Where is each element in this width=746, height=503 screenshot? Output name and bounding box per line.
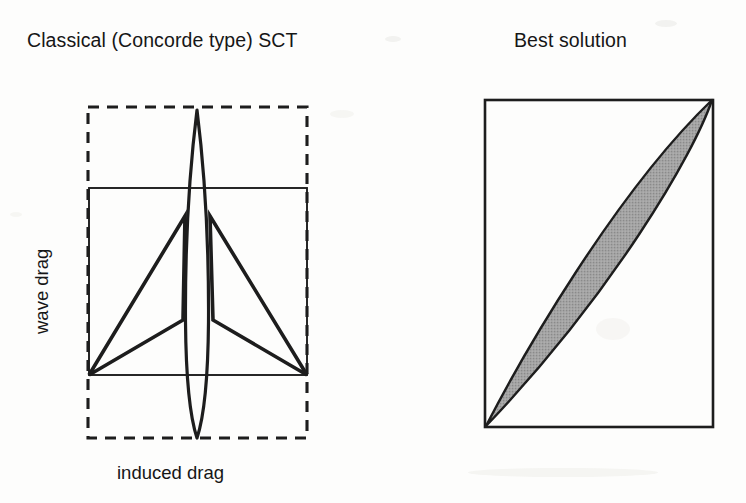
y-axis-label-wave-drag: wave drag [31, 249, 53, 334]
scan-speckle [330, 110, 354, 118]
panel-title-best-solution: Best solution [514, 29, 627, 52]
solid-feasible-box [89, 188, 307, 375]
x-axis-label-induced-drag: induced drag [117, 462, 224, 484]
scan-speckle [468, 468, 658, 477]
diagram-best-solution [470, 88, 732, 443]
scan-speckle [10, 212, 22, 217]
wing-left [89, 216, 185, 375]
scan-speckle [655, 20, 677, 27]
shaded-lens-region [486, 100, 712, 426]
scan-speckle [385, 36, 401, 42]
figure-page: Classical (Concorde type) SCT Best solut… [0, 0, 746, 503]
fuselage [185, 110, 208, 438]
classical-sct-svg [60, 90, 330, 455]
wing-right [210, 216, 307, 375]
panel-title-classical-sct: Classical (Concorde type) SCT [27, 29, 298, 52]
dashed-design-box [88, 107, 307, 438]
best-solution-svg [470, 88, 732, 443]
diagram-classical-sct [60, 90, 330, 455]
